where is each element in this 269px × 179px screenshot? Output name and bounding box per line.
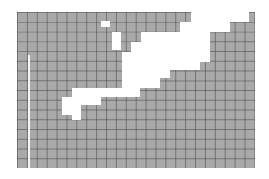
white-vertical-line: [28, 55, 30, 168]
gray-region-right-cap: [249, 12, 255, 22]
gray-region-right-h: [81, 105, 255, 120]
white-small-hole: [101, 21, 110, 27]
grid-map: [0, 0, 269, 179]
gray-region-left-band-d: [17, 88, 72, 97]
gray-region-right-d: [170, 70, 255, 78]
white-tall-hole: [112, 32, 121, 50]
gray-region-right-b: [210, 32, 255, 62]
gray-region-right-e: [160, 78, 255, 88]
gray-region-right-a: [230, 22, 255, 32]
gray-region-left-band-c: [17, 52, 122, 88]
gray-region-right-f: [140, 88, 255, 97]
gray-region-bottom-band: [17, 120, 255, 168]
gray-region-top-band-row1: [17, 22, 180, 32]
gray-region-left-band-a: [17, 32, 141, 42]
gray-region-left-band-e: [17, 97, 62, 115]
gray-region-right-g: [101, 97, 255, 105]
gray-region-right-c: [200, 62, 255, 70]
